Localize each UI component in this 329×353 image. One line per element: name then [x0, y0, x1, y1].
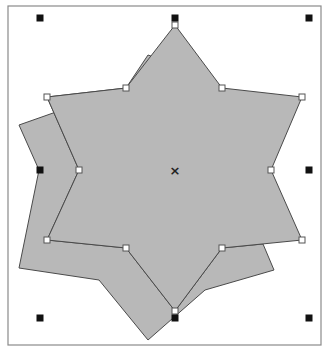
- node-handle-10[interactable]: [44, 94, 50, 100]
- node-handle-2[interactable]: [299, 94, 305, 100]
- selection-handle-top-left[interactable]: [37, 15, 44, 22]
- center-marker-icon[interactable]: ×: [170, 163, 181, 178]
- selection-handle-bottom-left[interactable]: [37, 315, 44, 322]
- node-handle-6[interactable]: [172, 308, 178, 314]
- node-handle-9[interactable]: [76, 167, 82, 173]
- star-drawing[interactable]: ×: [0, 0, 329, 353]
- selection-handle-middle-right[interactable]: [306, 167, 313, 174]
- node-handle-4[interactable]: [299, 237, 305, 243]
- node-handle-7[interactable]: [123, 245, 129, 251]
- node-handle-1[interactable]: [219, 85, 225, 91]
- node-handle-5[interactable]: [219, 245, 225, 251]
- node-handle-0[interactable]: [172, 22, 178, 28]
- selection-handle-bottom-right[interactable]: [306, 315, 313, 322]
- selection-handle-middle-left[interactable]: [37, 167, 44, 174]
- node-handle-3[interactable]: [268, 167, 274, 173]
- node-handle-11[interactable]: [123, 85, 129, 91]
- selection-handle-bottom-center[interactable]: [172, 315, 179, 322]
- selection-handle-top-center[interactable]: [172, 15, 179, 22]
- drawing-canvas[interactable]: ×: [0, 0, 329, 353]
- selection-handle-top-right[interactable]: [306, 15, 313, 22]
- node-handle-8[interactable]: [44, 237, 50, 243]
